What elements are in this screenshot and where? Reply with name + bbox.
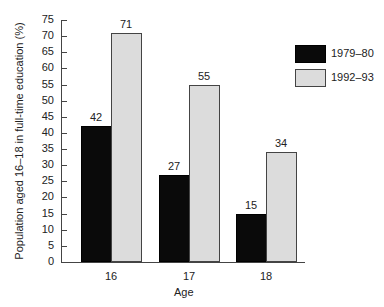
x-tick-label: 18 <box>251 270 281 282</box>
y-tick-label: 5 <box>32 239 54 251</box>
y-tick-label: 10 <box>32 223 54 235</box>
y-tick-mark <box>62 197 67 198</box>
legend-label: 1979–80 <box>331 47 374 59</box>
x-tick-label: 16 <box>96 270 126 282</box>
y-tick-label: 50 <box>32 94 54 106</box>
y-tick-label: 40 <box>32 126 54 138</box>
y-tick-label: 30 <box>32 158 54 170</box>
y-tick-mark <box>62 246 67 247</box>
y-tick-label: 20 <box>32 190 54 202</box>
y-axis-line <box>61 20 62 263</box>
y-tick-mark <box>62 214 67 215</box>
y-tick-mark <box>62 262 67 263</box>
y-tick-mark <box>62 230 67 231</box>
y-tick-mark <box>62 165 67 166</box>
legend-label: 1992–93 <box>331 71 374 83</box>
bar-17-1979–80 <box>159 175 190 262</box>
bar-16-1979–80 <box>81 126 112 262</box>
y-tick-label: 55 <box>32 78 54 90</box>
y-tick-mark <box>62 149 67 150</box>
y-tick-mark <box>62 68 67 69</box>
y-tick-label: 70 <box>32 29 54 41</box>
y-tick-mark <box>62 101 67 102</box>
y-tick-label: 75 <box>32 13 54 25</box>
bar-value-label: 34 <box>266 137 296 149</box>
y-tick-mark <box>62 117 67 118</box>
y-tick-label: 15 <box>32 207 54 219</box>
y-tick-label: 45 <box>32 110 54 122</box>
legend-swatch <box>295 69 326 87</box>
bar-value-label: 71 <box>111 18 141 30</box>
y-tick-label: 0 <box>32 255 54 267</box>
bar-18-1992–93 <box>266 152 297 262</box>
bar-value-label: 55 <box>189 70 219 82</box>
y-axis-title-text: Population aged 16–18 in full-time educa… <box>13 22 25 259</box>
x-axis-line <box>61 262 305 263</box>
bar-16-1992–93 <box>111 33 142 262</box>
legend-swatch <box>295 45 326 63</box>
bar-value-label: 15 <box>236 199 266 211</box>
y-tick-mark <box>62 52 67 53</box>
bar-value-label: 42 <box>81 111 111 123</box>
y-tick-label: 65 <box>32 45 54 57</box>
y-tick-mark <box>62 133 67 134</box>
y-tick-mark <box>62 85 67 86</box>
y-tick-mark <box>62 181 67 182</box>
bar-value-label: 27 <box>159 160 189 172</box>
bar-17-1992–93 <box>189 85 220 262</box>
x-tick-label: 17 <box>174 270 204 282</box>
y-tick-label: 25 <box>32 174 54 186</box>
x-axis-title: Age <box>174 286 194 298</box>
y-tick-label: 60 <box>32 61 54 73</box>
y-tick-label: 35 <box>32 142 54 154</box>
y-tick-mark <box>62 36 67 37</box>
y-tick-mark <box>62 20 67 21</box>
bar-18-1979–80 <box>236 214 267 262</box>
